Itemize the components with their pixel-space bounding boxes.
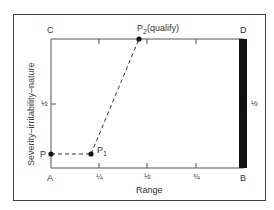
x-tick-label-three-quarter: ¾ xyxy=(193,173,200,181)
x-tick-label-quarter: ¼ xyxy=(96,173,103,181)
right-tick-label-half: ½ xyxy=(251,100,258,108)
corner-label-a: A xyxy=(47,174,53,183)
corner-label-b: B xyxy=(240,174,246,183)
y-tick-label-half: ½ xyxy=(41,100,48,108)
point-label-p1: P1 xyxy=(97,146,107,157)
corner-label-d: D xyxy=(240,26,247,35)
point-label-p: P xyxy=(40,150,46,159)
x-axis-label: Range xyxy=(136,186,163,195)
y-axis-label: Severity–irritability–nature xyxy=(26,62,36,166)
x-tick-label-half: ½ xyxy=(144,173,151,181)
point-label-p2: P2(qualify) xyxy=(137,24,179,35)
dashed-segment-p1-p2 xyxy=(91,39,139,154)
point-p1 xyxy=(88,151,93,156)
point-p2 xyxy=(136,36,141,41)
corner-label-c: C xyxy=(47,26,54,35)
max-range-bar xyxy=(239,39,247,168)
point-p xyxy=(48,151,53,156)
